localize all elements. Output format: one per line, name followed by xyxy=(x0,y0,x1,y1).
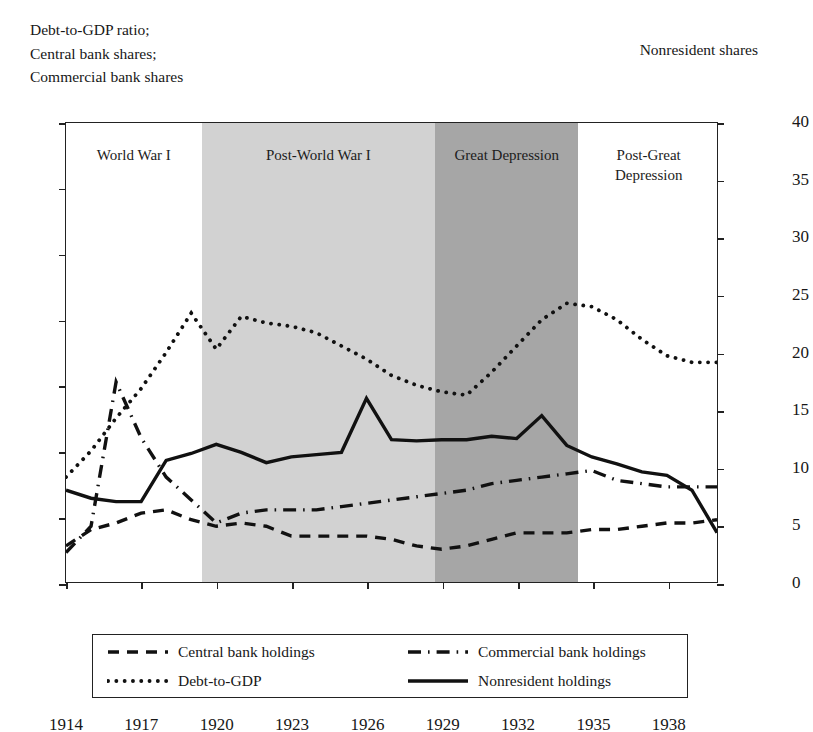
chart-legend: Central bank holdingsCommercial bank hol… xyxy=(92,634,688,698)
right-tick-label: 25 xyxy=(792,285,813,305)
right-tick xyxy=(717,411,724,413)
legend-swatch-dashed-icon xyxy=(107,646,169,658)
right-tick xyxy=(717,238,724,240)
chart-plot-area: World War IPost-World War IGreat Depress… xyxy=(65,122,718,583)
legend-label: Nonresident holdings xyxy=(478,672,611,690)
bottom-tick xyxy=(217,582,219,589)
bottom-tick xyxy=(141,582,143,589)
bottom-tick xyxy=(367,582,369,589)
bottom-tick xyxy=(66,582,68,589)
legend-item-central-bank-holdings: Central bank holdings xyxy=(107,643,407,661)
right-tick-label: 30 xyxy=(792,227,813,247)
chart-series-group xyxy=(66,123,717,582)
left-tick xyxy=(59,321,66,323)
legend-swatch-dashdot-icon xyxy=(407,646,469,658)
left-axis-caption: Debt-to-GDP ratio; Central bank shares; … xyxy=(30,18,183,89)
x-tick-label: 1938 xyxy=(634,715,704,732)
x-tick-label: 1929 xyxy=(408,715,478,732)
right-tick xyxy=(717,584,724,586)
x-tick-label: 1914 xyxy=(31,715,101,732)
left-tick xyxy=(59,386,66,388)
right-tick xyxy=(717,354,724,356)
x-tick-label: 1935 xyxy=(558,715,628,732)
legend-item-debt-to-gdp: Debt-to-GDP xyxy=(107,672,407,690)
x-tick-label: 1923 xyxy=(257,715,327,732)
bottom-tick xyxy=(443,582,445,589)
right-tick-label: 40 xyxy=(792,112,813,132)
right-tick-label: 10 xyxy=(792,458,813,478)
right-tick xyxy=(717,123,724,125)
right-tick xyxy=(717,469,724,471)
legend-swatch-dotted-icon xyxy=(107,675,169,687)
x-tick-label: 1920 xyxy=(182,715,252,732)
right-tick-label: 20 xyxy=(792,343,813,363)
x-tick-label: 1926 xyxy=(332,715,402,732)
x-tick-label: 1932 xyxy=(483,715,553,732)
left-tick xyxy=(59,452,66,454)
series-line-central-bank-holdings xyxy=(66,510,717,549)
right-axis-caption: Nonresident shares xyxy=(640,38,758,62)
chart-plot-inner: World War IPost-World War IGreat Depress… xyxy=(66,123,717,582)
right-tick xyxy=(717,181,724,183)
series-line-nonresident-holdings xyxy=(66,398,717,532)
bottom-tick xyxy=(593,582,595,589)
bottom-tick xyxy=(669,582,671,589)
left-tick xyxy=(59,255,66,257)
left-tick xyxy=(59,518,66,520)
left-tick xyxy=(59,123,66,125)
right-tick-label: 15 xyxy=(792,400,813,420)
right-tick-label: 0 xyxy=(792,573,813,593)
bottom-tick xyxy=(518,582,520,589)
left-tick xyxy=(59,584,66,586)
legend-label: Debt-to-GDP xyxy=(178,672,262,690)
bottom-tick xyxy=(292,582,294,589)
left-tick xyxy=(59,189,66,191)
series-line-debt-to-gdp xyxy=(66,303,717,477)
legend-label: Commercial bank holdings xyxy=(478,643,646,661)
x-tick-label: 1917 xyxy=(106,715,176,732)
legend-swatch-solid-icon xyxy=(407,675,469,687)
legend-item-nonresident-holdings: Nonresident holdings xyxy=(407,672,703,690)
legend-item-commercial-bank-holdings: Commercial bank holdings xyxy=(407,643,703,661)
right-tick-label: 5 xyxy=(792,515,813,535)
right-tick-label: 35 xyxy=(792,170,813,190)
right-tick xyxy=(717,296,724,298)
legend-label: Central bank holdings xyxy=(178,643,315,661)
right-tick xyxy=(717,526,724,528)
